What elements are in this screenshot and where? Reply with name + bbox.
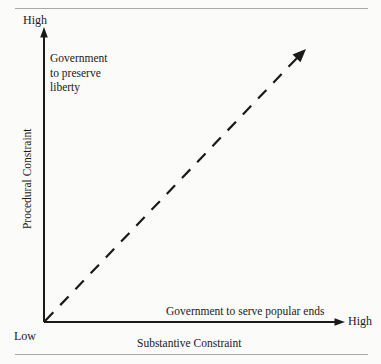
y-axis-arrowhead <box>40 27 48 38</box>
y-axis-title: Procedural Constraint <box>21 124 35 234</box>
x-axis-arrowhead <box>335 318 346 326</box>
x-axis-high-label: High <box>348 315 372 329</box>
x-axis-title: Substantive Constraint <box>137 337 241 351</box>
y-axis-high-label: High <box>23 14 47 28</box>
annotation-preserve-liberty-line-3: liberty <box>50 80 146 95</box>
figure-container: High Low High Procedural Constraint Subs… <box>0 0 381 364</box>
annotation-serve-popular-ends: Government to serve popular ends <box>166 305 324 319</box>
y-axis-low-label: Low <box>14 330 36 344</box>
annotation-preserve-liberty-line-1: Government <box>50 51 146 66</box>
annotation-preserve-liberty: Government to preserve liberty <box>50 51 146 95</box>
annotation-preserve-liberty-line-2: to preserve <box>50 66 146 81</box>
diagonal-dashed-line <box>45 58 297 321</box>
